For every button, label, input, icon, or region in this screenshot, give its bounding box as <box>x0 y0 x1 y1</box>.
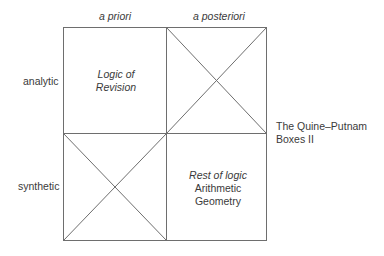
caption-line: The Quine–Putnam <box>276 120 367 133</box>
cell-rest-of-logic: Rest of logic Arithmetic Geometry <box>178 169 258 208</box>
column-header-a-priori: a priori <box>99 10 131 23</box>
cell-logic-of-revision: Logic of Revision <box>86 68 146 94</box>
cell-text-line: Rest of logic <box>178 169 258 182</box>
cell-text-line: Arithmetic <box>178 182 258 195</box>
row-header-synthetic: synthetic <box>18 180 59 193</box>
column-header-a-posteriori: a posteriori <box>193 10 245 23</box>
cross-top-right <box>167 28 267 134</box>
cross-bottom-left <box>64 134 167 241</box>
diagram-caption: The Quine–Putnam Boxes II <box>276 120 367 146</box>
cell-text-line: Geometry <box>178 195 258 208</box>
cell-text-line: Logic of <box>86 68 146 81</box>
cell-text-line: Revision <box>86 81 146 94</box>
caption-line: Boxes II <box>276 133 367 146</box>
row-header-analytic: analytic <box>23 75 59 88</box>
